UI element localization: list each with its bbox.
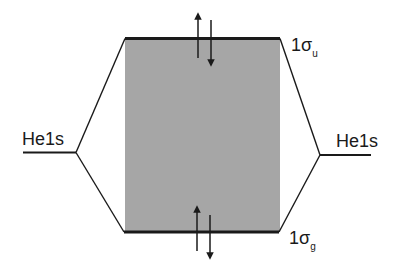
left-upper-correlation-line [76,39,125,153]
antibonding-orbital-label: 1σu [291,35,318,59]
bonding-label-main: 1σ [289,228,310,248]
bonding-label-subscript: g [310,241,316,252]
shaded-region [125,39,280,232]
left-lower-correlation-line [76,153,124,233]
mo-diagram: He1s He1s 1σu 1σg [0,0,406,274]
bonding-orbital-label: 1σg [289,228,316,252]
antibonding-label-main: 1σ [291,35,312,55]
right-atomic-orbital-label: He1s [336,131,378,151]
right-lower-correlation-line [279,155,320,232]
antibonding-label-subscript: u [312,48,318,59]
left-atomic-orbital-label: He1s [22,129,64,149]
